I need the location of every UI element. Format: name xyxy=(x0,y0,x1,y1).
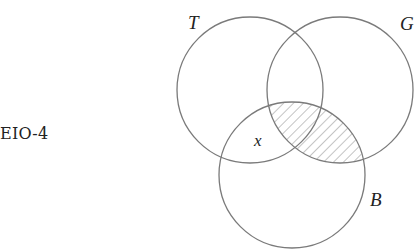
venn-diagram: T G B x xyxy=(0,0,419,250)
set-label-b: B xyxy=(370,189,382,210)
marker-x: x xyxy=(253,131,262,150)
shaded-region-b-and-g xyxy=(219,102,365,248)
set-label-t: T xyxy=(188,12,200,33)
set-label-g: G xyxy=(400,13,414,34)
